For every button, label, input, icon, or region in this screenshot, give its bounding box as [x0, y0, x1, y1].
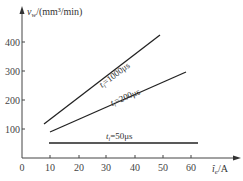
chart-svg: 100 200 300 400 0 10 20 30 40 50 60 vw/(…: [0, 0, 243, 181]
series-label-200us: ti=200μs: [109, 86, 142, 108]
y-tick-label: 300: [5, 66, 20, 77]
y-axis-arrow-icon: [20, 6, 25, 14]
x-axis-label: îe/A: [212, 163, 229, 176]
y-axis-label: vw/(mm³/min): [27, 6, 82, 19]
x-tick-label: 60: [186, 162, 196, 173]
y-tick-label: 200: [5, 95, 20, 106]
svg-text:ti=1000μs: ti=1000μs: [97, 60, 132, 91]
x-axis-arrow-icon: [233, 156, 241, 161]
x-tick-label: 0: [20, 162, 25, 173]
x-tick-label: 50: [158, 162, 168, 173]
svg-text:ti=50μs: ti=50μs: [106, 131, 133, 142]
series-label-1000us: ti=1000μs: [97, 60, 132, 91]
svg-text:ti=200μs: ti=200μs: [109, 86, 142, 108]
y-tick-label: 100: [5, 124, 20, 135]
x-tick-label: 20: [74, 162, 84, 173]
y-tick-label: 400: [5, 37, 20, 48]
x-tick-label: 30: [101, 162, 111, 173]
x-tick-label: 40: [130, 162, 140, 173]
series-label-50us: ti=50μs: [106, 131, 133, 142]
svg-text:vw/(mm³/min): vw/(mm³/min): [27, 6, 82, 19]
x-tick-label: 10: [45, 162, 55, 173]
svg-text:îe/A: îe/A: [212, 163, 229, 176]
